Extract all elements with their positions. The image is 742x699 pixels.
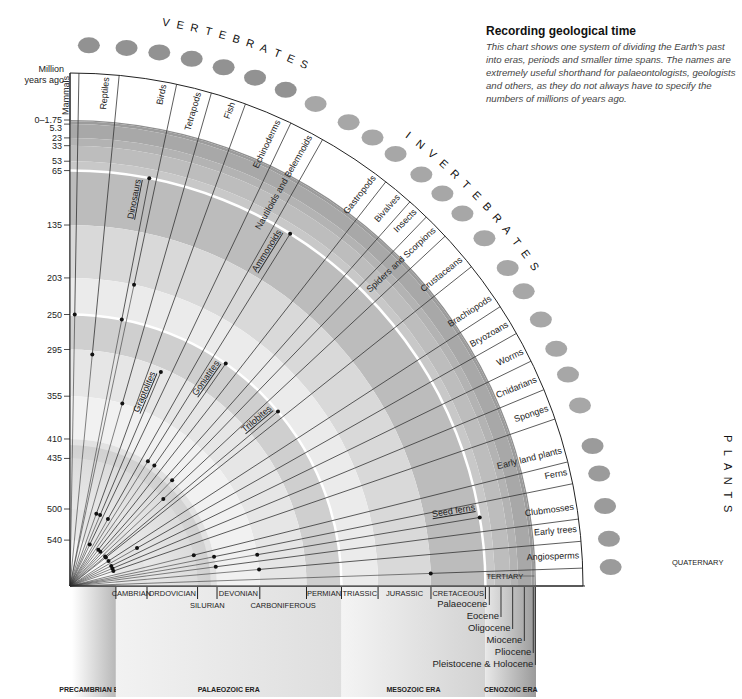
svg-text:E: E [217, 28, 230, 42]
era-label: PALAEOZOIC ERA [198, 686, 260, 693]
tick-label: 203 [47, 273, 62, 283]
intro-body: This chart shows one system of dividing … [486, 40, 736, 105]
svg-text:N: N [414, 137, 430, 153]
tick-label: 250 [47, 310, 62, 320]
organism-icon [582, 438, 604, 454]
svg-text:R: R [189, 21, 202, 35]
svg-text:R: R [448, 167, 464, 183]
tick-label: 410 [47, 434, 62, 444]
svg-text:B: B [480, 200, 496, 215]
svg-text:E: E [519, 247, 534, 262]
origin-dot [146, 459, 150, 463]
svg-text:E: E [176, 18, 188, 32]
organism-icon [213, 59, 235, 75]
era-label: CENOZOIC ERA [484, 686, 538, 693]
group-label: Mammals [60, 75, 71, 115]
origin-dot [214, 565, 218, 569]
axis-title-line2: years ago [24, 75, 64, 85]
tick-label: 5.3 [49, 123, 62, 133]
svg-text:T: T [722, 491, 734, 500]
origin-dot [161, 497, 165, 501]
organism-icon [569, 397, 591, 413]
origin-dot [111, 569, 115, 573]
origin-dot [106, 517, 110, 521]
organism-icon [600, 559, 622, 575]
organism-icon [78, 37, 100, 53]
origin-dot [132, 283, 136, 287]
origin-dot [88, 543, 92, 547]
organism-icon [148, 44, 170, 60]
origin-dot [255, 553, 259, 557]
organism-icon [181, 51, 203, 67]
svg-text:E: E [285, 51, 299, 66]
era-label: MESOZOIC ERA [386, 686, 440, 693]
origin-dot [98, 513, 102, 517]
organism-icon [410, 167, 432, 183]
period-label: CRETACEOUS [432, 589, 484, 598]
svg-text:A: A [722, 463, 734, 473]
period-label: JURASSIC [386, 589, 424, 598]
tick-label: 295 [47, 345, 62, 355]
tick-label: 33 [52, 141, 62, 151]
organism-icon [530, 312, 552, 328]
origin-dot [429, 571, 433, 575]
organism-icon [385, 146, 407, 162]
organism-icon [545, 341, 567, 357]
organism-icon [116, 40, 138, 56]
tick-label: 65 [52, 166, 62, 176]
extinction-dot [288, 232, 292, 236]
origin-dot [90, 352, 94, 356]
period-label: CARBONIFEROUS [250, 601, 315, 610]
origin-dot [106, 559, 110, 563]
intro-title: Recording geological time [486, 24, 736, 38]
axis-title-line1: Million [38, 64, 64, 74]
svg-text:T: T [272, 46, 285, 61]
epoch-label: Miocene [486, 634, 522, 645]
svg-text:S: S [722, 505, 734, 515]
origin-dot [152, 464, 156, 468]
organism-icon [513, 283, 535, 299]
period-label-quaternary: QUATERNARY [672, 558, 723, 567]
group-label: Angiosperms [526, 550, 579, 562]
organism-icon [362, 129, 384, 145]
tick-label: 435 [47, 453, 62, 463]
tick-label: 500 [47, 504, 62, 514]
origin-dot [170, 478, 174, 482]
svg-text:R: R [490, 211, 506, 227]
svg-text:N: N [722, 477, 734, 487]
epoch-label: Oligocene [468, 622, 511, 633]
period-label: SILURIAN [190, 601, 225, 610]
svg-text:A: A [258, 41, 271, 56]
period-label: TRIASSIC [342, 589, 377, 598]
extinction-dot [147, 176, 151, 180]
svg-text:R: R [245, 36, 259, 51]
organism-icon [497, 260, 519, 276]
svg-text:I: I [404, 129, 416, 142]
organism-icon [594, 498, 616, 514]
intro-panel: Recording geological time This chart sho… [486, 24, 736, 105]
epoch-label: Pliocene [495, 646, 531, 657]
organism-icon [557, 367, 579, 383]
period-label: PERMIAN [307, 589, 341, 598]
organism-icon [598, 531, 620, 547]
svg-text:T: T [460, 178, 475, 193]
svg-text:E: E [470, 189, 485, 204]
origin-dot [135, 546, 139, 550]
extinction-dot [276, 409, 280, 413]
svg-text:S: S [298, 57, 312, 72]
svg-text:A: A [500, 223, 516, 238]
origin-dot [120, 402, 124, 406]
period-label: DEVONIAN [219, 589, 258, 598]
epoch-label: Pleistocene & Holocene [433, 658, 534, 669]
extinction-dot [159, 370, 163, 374]
origin-dot [104, 555, 108, 559]
period-label: ORDOVICIAN [149, 589, 197, 598]
extinction-dot [478, 515, 482, 519]
svg-text:P: P [722, 435, 734, 445]
extinction-dot [224, 362, 228, 366]
tick-label: 540 [47, 535, 62, 545]
organism-icon [244, 70, 266, 86]
svg-text:S: S [528, 260, 543, 275]
era-strip [72, 587, 116, 697]
organism-icon [305, 96, 327, 112]
